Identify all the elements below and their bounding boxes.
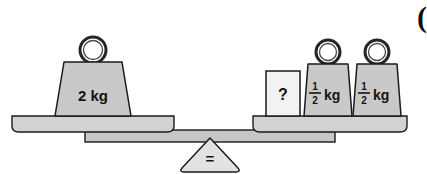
weight-half-kg-1-numerator: 1 (312, 81, 318, 92)
weight-half-kg-1-ring-inner (320, 44, 337, 61)
right-pan-tray (253, 116, 407, 132)
weight-2kg: 2 kg (55, 37, 131, 116)
weight-half-kg-2-numerator: 1 (361, 81, 367, 92)
right-pan (253, 116, 407, 132)
fulcrum: = (181, 138, 239, 172)
fulcrum-equals-label: = (206, 150, 215, 167)
weight-half-kg-2-denominator: 2 (361, 95, 367, 106)
weight-half-kg-1: 1 2 kg (304, 40, 352, 116)
left-pan (12, 116, 174, 132)
weight-2kg-label: 2 kg (78, 87, 108, 104)
weight-half-kg-1-unit: kg (324, 87, 340, 103)
cropped-glyph-mark: ( (417, 2, 427, 32)
weight-2kg-ring-inner (84, 41, 103, 60)
weight-half-kg-1-denominator: 2 (312, 95, 318, 106)
unknown-box: ? (266, 71, 300, 116)
unknown-box-label: ? (278, 86, 288, 103)
left-pan-tray (12, 116, 174, 132)
weight-half-kg-2-ring-inner (369, 44, 386, 61)
weight-half-kg-2-unit: kg (373, 87, 389, 103)
weight-half-kg-2: 1 2 kg (353, 40, 401, 116)
